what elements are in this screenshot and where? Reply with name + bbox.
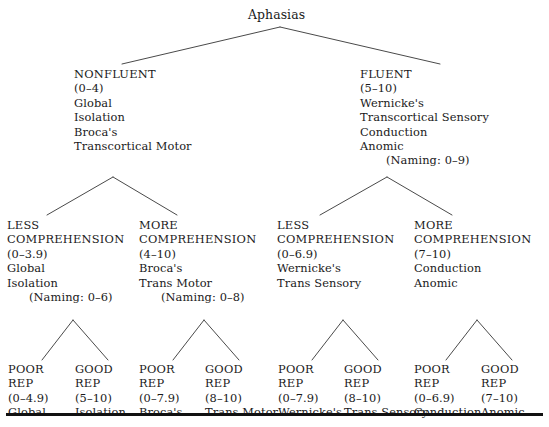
nf-more-heading-1: MORE (139, 218, 256, 232)
fluent-range: (5–10) (360, 81, 489, 95)
leaf-global-heading-2: REP (8, 376, 49, 390)
nf-more-naming: (Naming: 0–8) (139, 290, 256, 304)
connector-less-fluent-to-poor (312, 320, 343, 360)
leaf-brocas-range: (0–7.9) (139, 391, 183, 405)
fluent-item-2: Conduction (360, 125, 489, 139)
nf-less-item-0: Global (7, 261, 124, 275)
leaf-wernickes-heading-1: POOR (278, 362, 342, 376)
aphasia-classification-diagram: Aphasias NONFLUENT (0–4) Global Isolatio… (0, 0, 549, 427)
nf-more-range: (4–10) (139, 247, 256, 261)
leaf-trans-motor-heading-2: REP (205, 376, 278, 390)
leaf-anomic-range: (7–10) (481, 391, 525, 405)
connector-fluent-to-less (320, 177, 387, 215)
fl-more-item-0: Conduction (414, 261, 531, 275)
leaf-node-trans-motor: GOOD REP (8–10) Trans Motor (205, 362, 278, 420)
leaf-conduction-range: (0–6.9) (414, 391, 481, 405)
node-nonfluent-more-comprehension: MORE COMPREHENSION (4–10) Broca's Trans … (139, 218, 256, 304)
leaf-global-heading-1: POOR (8, 362, 49, 376)
fl-less-item-0: Wernicke's (277, 261, 394, 275)
connector-root-to-nonfluent (122, 27, 280, 64)
connector-fluent-to-more (387, 177, 452, 215)
nf-less-item-1: Isolation (7, 276, 124, 290)
leaf-brocas-heading-1: POOR (139, 362, 183, 376)
node-nonfluent-less-comprehension: LESS COMPREHENSION (0–3.9) Global Isolat… (7, 218, 124, 304)
leaf-node-isolation: GOOD REP (5–10) Isolation (75, 362, 126, 420)
leaf-node-global: POOR REP (0–4.9) Global (8, 362, 49, 420)
connector-less-nonfluent-to-good (73, 320, 108, 360)
leaf-node-anomic: GOOD REP (7–10) Anomic (481, 362, 525, 420)
fl-more-heading-2: COMPREHENSION (414, 232, 531, 246)
nf-more-heading-2: COMPREHENSION (139, 232, 256, 246)
fl-less-item-1: Trans Sensory (277, 276, 394, 290)
leaf-anomic-heading-1: GOOD (481, 362, 525, 376)
fl-more-range: (7–10) (414, 247, 531, 261)
fl-more-item-1: Anomic (414, 276, 531, 290)
leaf-isolation-heading-2: REP (75, 376, 126, 390)
fluent-item-3: Anomic (360, 139, 489, 153)
node-fluent-more-comprehension: MORE COMPREHENSION (7–10) Conduction Ano… (414, 218, 531, 290)
nonfluent-item-0: Global (74, 96, 192, 110)
fl-less-range: (0–6.9) (277, 247, 394, 261)
leaf-node-brocas: POOR REP (0–7.9) Broca's (139, 362, 183, 420)
leaf-isolation-heading-1: GOOD (75, 362, 126, 376)
nonfluent-range: (0–4) (74, 81, 192, 95)
connector-more-nonfluent-to-good (204, 320, 239, 360)
root-node-aphasias: Aphasias (248, 8, 305, 22)
leaf-wernickes-range: (0–7.9) (278, 391, 342, 405)
leaf-trans-motor-range: (8–10) (205, 391, 278, 405)
fl-less-heading-2: COMPREHENSION (277, 232, 394, 246)
connector-more-fluent-to-poor (446, 320, 477, 360)
leaf-trans-motor-heading-1: GOOD (205, 362, 278, 376)
connector-nonfluent-to-less (47, 177, 113, 215)
fluent-item-0: Wernicke's (360, 96, 489, 110)
nonfluent-item-1: Isolation (74, 110, 192, 124)
fluent-naming: (Naming: 0–9) (360, 153, 489, 167)
connector-more-fluent-to-good (477, 320, 512, 360)
leaf-isolation-range: (5–10) (75, 391, 126, 405)
node-fluent: FLUENT (5–10) Wernicke's Transcortical S… (360, 67, 489, 168)
fluent-heading: FLUENT (360, 67, 489, 81)
leaf-conduction-heading-2: REP (414, 376, 481, 390)
fl-more-heading-1: MORE (414, 218, 531, 232)
connector-root-to-fluent (280, 27, 440, 64)
nonfluent-heading: NONFLUENT (74, 67, 192, 81)
leaf-global-range: (0–4.9) (8, 391, 49, 405)
leaf-node-conduction: POOR REP (0–6.9) Conduction (414, 362, 481, 420)
bottom-horizontal-rule (6, 413, 543, 416)
nonfluent-item-2: Broca's (74, 125, 192, 139)
leaf-conduction-heading-1: POOR (414, 362, 481, 376)
connector-more-nonfluent-to-poor (173, 320, 204, 360)
connector-less-nonfluent-to-poor (42, 320, 73, 360)
nf-more-item-0: Broca's (139, 261, 256, 275)
node-nonfluent: NONFLUENT (0–4) Global Isolation Broca's… (74, 67, 192, 153)
nonfluent-item-3: Transcortical Motor (74, 139, 192, 153)
nf-less-heading-2: COMPREHENSION (7, 232, 124, 246)
nf-less-naming: (Naming: 0–6) (7, 290, 124, 304)
fl-less-heading-1: LESS (277, 218, 394, 232)
connector-less-fluent-to-good (343, 320, 378, 360)
node-fluent-less-comprehension: LESS COMPREHENSION (0–6.9) Wernicke's Tr… (277, 218, 394, 290)
root-label: Aphasias (248, 8, 305, 22)
nf-less-range: (0–3.9) (7, 247, 124, 261)
connector-nonfluent-to-more (113, 177, 177, 215)
leaf-wernickes-heading-2: REP (278, 376, 342, 390)
leaf-anomic-heading-2: REP (481, 376, 525, 390)
nf-less-heading-1: LESS (7, 218, 124, 232)
leaf-node-wernickes: POOR REP (0–7.9) Wernicke's (278, 362, 342, 420)
fluent-item-1: Transcortical Sensory (360, 110, 489, 124)
leaf-brocas-heading-2: REP (139, 376, 183, 390)
nf-more-item-1: Trans Motor (139, 276, 256, 290)
